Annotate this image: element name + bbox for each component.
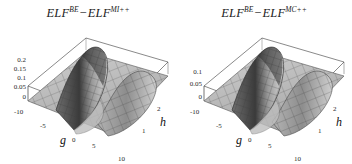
y-tick: 1 xyxy=(142,127,146,135)
y-tick: 1 xyxy=(318,127,322,135)
x-axis-label: g xyxy=(60,133,66,147)
x-tick: -5 xyxy=(216,122,222,130)
y-axis-label: h xyxy=(336,115,342,129)
x-tick: 5 xyxy=(92,142,96,150)
title-lhs-sup: BE xyxy=(244,5,253,14)
surface-plot-left: 0.2 0.15 0.1 0.05 0 -10 -5 0 5 10 g xyxy=(0,18,176,164)
x-tick: 0 xyxy=(248,136,252,144)
figure-container: ELFBE−ELFMI++ xyxy=(0,0,352,164)
x-axis-label: g xyxy=(236,133,242,147)
x-tick: 0 xyxy=(72,136,76,144)
x-tick: -10 xyxy=(190,108,200,116)
x-tick: -10 xyxy=(14,108,24,116)
y-tick: 2 xyxy=(157,105,161,113)
z-tick: 0 xyxy=(199,93,203,101)
surface-plot-right: 0.1 0.05 0 -10 -5 0 5 10 g 2 1 h xyxy=(176,18,352,164)
panel-left: ELFBE−ELFMI++ xyxy=(0,0,176,164)
z-axis-left: 0.2 0.15 0.1 0.05 0 xyxy=(14,56,27,101)
z-tick: 0.1 xyxy=(193,68,202,76)
z-axis-right: 0.1 0.05 0 xyxy=(190,68,203,101)
x-tick: 10 xyxy=(118,155,126,163)
title-rhs-sup: MC++ xyxy=(285,5,306,14)
x-tick: 5 xyxy=(268,142,272,150)
z-tick: 0.15 xyxy=(14,65,27,73)
title-lhs-sup: BE xyxy=(69,5,78,14)
y-tick: 2 xyxy=(333,105,337,113)
y-axis-label: h xyxy=(160,115,166,129)
x-tick: -5 xyxy=(40,122,46,130)
z-tick: 0.1 xyxy=(17,74,26,82)
z-tick: 0 xyxy=(23,93,27,101)
x-tick: 10 xyxy=(294,155,302,163)
title-rhs-sup: MI++ xyxy=(111,5,130,14)
z-tick: 0.05 xyxy=(14,83,27,91)
z-tick: 0.2 xyxy=(17,56,26,64)
z-tick: 0.05 xyxy=(190,80,203,88)
panel-right: ELFBE−ELFMC++ xyxy=(176,0,352,164)
